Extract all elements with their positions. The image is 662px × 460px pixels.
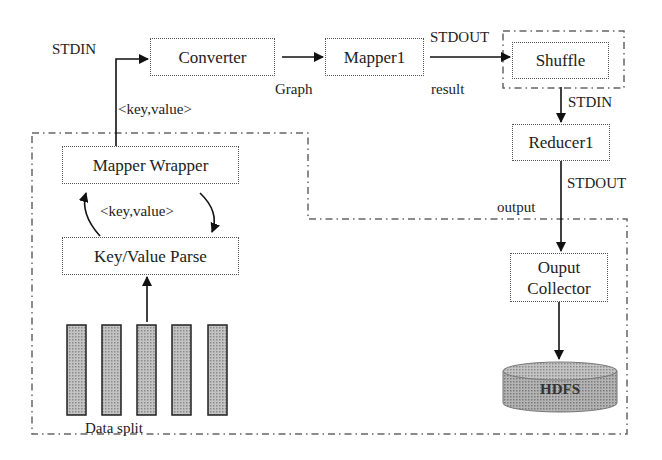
stdout-label-reducer: STDOUT (567, 175, 626, 192)
graph-label: Graph (275, 81, 313, 98)
converter-label: Converter (179, 47, 247, 68)
stdout-label-mapper: STDOUT (430, 29, 489, 46)
arrow-parse-to-wrapper (85, 193, 100, 236)
mapper-wrapper-label: Mapper Wrapper (93, 155, 209, 176)
reducer1-node: Reducer1 (512, 124, 610, 161)
key-value-parse-label: Key/Value Parse (94, 246, 207, 267)
key-value-loop-label: <key,value> (100, 203, 174, 220)
output-collector-label-2: Collector (527, 278, 590, 299)
reducer1-label: Reducer1 (528, 132, 593, 153)
mapper-wrapper-node: Mapper Wrapper (62, 146, 239, 184)
converter-node: Converter (150, 38, 275, 76)
stdin-label-reducer: STDIN (568, 94, 612, 111)
output-collector-label-1: Ouput (538, 257, 581, 278)
mapper1-label: Mapper1 (344, 47, 405, 68)
data-split-label: Data split (85, 420, 143, 437)
key-value-top-label: <key,value> (118, 101, 192, 118)
key-value-parse-node: Key/Value Parse (62, 237, 239, 275)
mapper1-node: Mapper1 (325, 38, 424, 76)
output-label: output (497, 199, 535, 216)
arrow-wrapper-to-parse (200, 193, 214, 232)
output-collector-node: Ouput Collector (510, 253, 608, 302)
shuffle-label: Shuffle (536, 50, 586, 71)
shuffle-node: Shuffle (512, 42, 609, 79)
data-split-bars (67, 325, 227, 415)
stdin-label-converter: STDIN (52, 41, 96, 58)
result-label: result (431, 81, 464, 98)
hdfs-label: HDFS (540, 381, 580, 398)
